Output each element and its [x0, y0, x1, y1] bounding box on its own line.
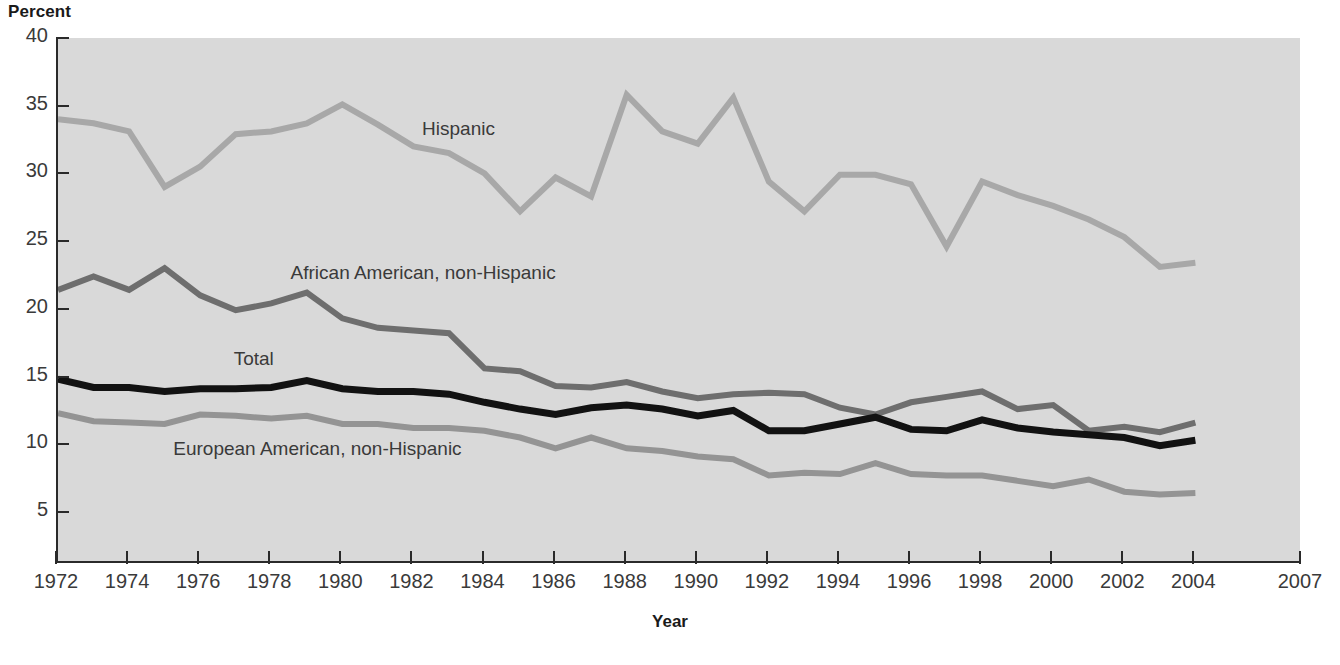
- chart-figure: Percent 403530252015105 1972197419761978…: [0, 0, 1340, 665]
- x-tick-mark: [1299, 551, 1301, 564]
- x-tick-mark: [979, 551, 981, 564]
- y-tick-label: 5: [4, 498, 48, 521]
- x-tick-label: 2002: [1087, 570, 1157, 593]
- plot-lines: [58, 38, 1302, 563]
- x-tick-mark: [766, 551, 768, 564]
- y-tick-mark: [56, 376, 69, 378]
- y-tick-mark: [56, 37, 69, 39]
- x-tick-label: 1980: [305, 570, 375, 593]
- x-tick-label: 1984: [448, 570, 518, 593]
- x-tick-mark: [1121, 551, 1123, 564]
- y-tick-mark: [56, 172, 69, 174]
- x-tick-label: 1974: [92, 570, 162, 593]
- y-tick-label: 15: [4, 363, 48, 386]
- x-tick-label: 1988: [590, 570, 660, 593]
- x-tick-mark: [1192, 551, 1194, 564]
- x-tick-label: 1978: [234, 570, 304, 593]
- x-tick-label: 1998: [945, 570, 1015, 593]
- x-tick-label: 1972: [21, 570, 91, 593]
- series-label: European American, non-Hispanic: [173, 438, 461, 460]
- x-tick-mark: [624, 551, 626, 564]
- y-tick-label: 25: [4, 227, 48, 250]
- x-tick-mark: [837, 551, 839, 564]
- y-tick-label: 40: [4, 24, 48, 47]
- x-tick-label: 1986: [519, 570, 589, 593]
- x-tick-label: 1982: [376, 570, 446, 593]
- x-tick-mark: [126, 551, 128, 564]
- y-tick-mark: [56, 511, 69, 513]
- x-tick-label: 1994: [803, 570, 873, 593]
- x-tick-mark: [339, 551, 341, 564]
- x-tick-mark: [1050, 551, 1052, 564]
- y-tick-mark: [56, 308, 69, 310]
- y-tick-mark: [56, 240, 69, 242]
- x-axis-title: Year: [0, 612, 1340, 632]
- x-tick-label: 1990: [661, 570, 731, 593]
- x-tick-mark: [695, 551, 697, 564]
- y-tick-label: 30: [4, 159, 48, 182]
- x-tick-label: 1992: [732, 570, 802, 593]
- x-tick-mark: [410, 551, 412, 564]
- y-tick-label: 35: [4, 92, 48, 115]
- x-tick-mark: [908, 551, 910, 564]
- x-tick-label: 2000: [1016, 570, 1086, 593]
- x-tick-label: 2007: [1265, 570, 1335, 593]
- series-label: African American, non-Hispanic: [291, 262, 556, 284]
- x-tick-label: 1996: [874, 570, 944, 593]
- x-tick-mark: [268, 551, 270, 564]
- x-tick-mark: [482, 551, 484, 564]
- x-tick-label: 2004: [1158, 570, 1228, 593]
- x-tick-mark: [197, 551, 199, 564]
- y-tick-label: 10: [4, 430, 48, 453]
- x-tick-mark: [55, 551, 57, 564]
- x-tick-label: 1976: [163, 570, 233, 593]
- y-tick-mark: [56, 105, 69, 107]
- y-tick-mark: [56, 443, 69, 445]
- y-axis-title: Percent: [8, 2, 71, 22]
- plot-area: [56, 38, 1300, 563]
- series-label: Total: [234, 348, 274, 370]
- series-line: [58, 379, 1195, 445]
- y-tick-label: 20: [4, 295, 48, 318]
- x-tick-mark: [553, 551, 555, 564]
- series-label: Hispanic: [422, 118, 495, 140]
- series-line: [58, 95, 1195, 267]
